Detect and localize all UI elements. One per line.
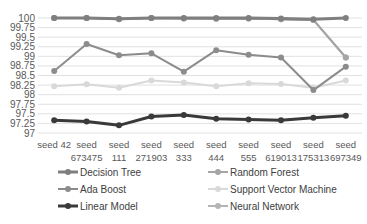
data-point	[51, 68, 57, 74]
x-tick-label: seed	[238, 139, 259, 150]
data-point	[51, 83, 57, 89]
legend-marker-icon	[215, 203, 221, 209]
data-point	[51, 15, 57, 21]
legend-label: Random Forest	[230, 167, 299, 178]
x-tick-label: 271903	[136, 152, 168, 163]
series-neural-network	[51, 15, 349, 60]
data-point	[278, 81, 284, 87]
series-lines	[51, 15, 349, 128]
x-tick-label: seed	[173, 139, 194, 150]
data-point	[116, 85, 122, 91]
x-tick-label: 175313	[298, 152, 330, 163]
data-point	[343, 15, 349, 21]
data-point	[148, 15, 154, 21]
data-point	[246, 15, 252, 21]
data-point	[343, 54, 349, 60]
legend-label: Neural Network	[230, 201, 300, 212]
line-chart: 10099.7599.599.259998.7598.598.259897.75…	[0, 0, 367, 224]
legend-item: Support Vector Machine	[208, 184, 337, 195]
data-point	[310, 115, 316, 121]
data-point	[246, 117, 252, 123]
legend-label: Decision Tree	[80, 167, 142, 178]
data-point	[181, 69, 187, 75]
data-point	[278, 54, 284, 60]
data-point	[213, 116, 219, 122]
y-tick-label: 97	[24, 128, 36, 139]
x-tick-label: 673475	[71, 152, 103, 163]
series-random-forest	[51, 15, 349, 60]
legend-marker-icon	[215, 169, 221, 175]
legend-label: Support Vector Machine	[230, 184, 337, 195]
data-point	[310, 16, 316, 22]
data-point	[278, 117, 284, 123]
legend-marker-icon	[65, 169, 71, 175]
x-tick-label: seed	[76, 139, 97, 150]
legend-label: Ada Boost	[80, 184, 126, 195]
legend: Decision TreeRandom ForestAda BoostSuppo…	[58, 167, 337, 212]
x-tick-label: seed	[271, 139, 292, 150]
legend-marker-icon	[215, 186, 221, 192]
data-point	[343, 113, 349, 119]
data-point	[213, 15, 219, 21]
data-point	[116, 16, 122, 22]
x-tick-label: 697349	[330, 152, 362, 163]
x-axis-ticks: seed 42seed673475seed111seed271903seed33…	[37, 139, 361, 163]
data-point	[246, 80, 252, 86]
data-point	[116, 122, 122, 128]
x-tick-label: seed	[141, 139, 162, 150]
data-point	[310, 87, 316, 93]
data-point	[148, 77, 154, 83]
data-point	[84, 15, 90, 21]
x-tick-label: 444	[208, 152, 224, 163]
data-point	[181, 112, 187, 118]
y-axis-ticks: 10099.7599.599.259998.7598.598.259897.75…	[10, 13, 35, 139]
legend-marker-icon	[65, 186, 71, 192]
data-point	[84, 81, 90, 87]
data-point	[181, 15, 187, 21]
legend-item: Linear Model	[58, 201, 138, 212]
data-point	[116, 52, 122, 58]
data-point	[343, 64, 349, 70]
x-tick-label: seed	[109, 139, 130, 150]
data-point	[148, 114, 154, 120]
data-point	[278, 15, 284, 21]
x-tick-label: seed	[303, 139, 324, 150]
x-tick-label: 619013	[265, 152, 297, 163]
x-tick-label: 333	[176, 152, 192, 163]
data-point	[343, 77, 349, 83]
data-point	[51, 117, 57, 123]
legend-label: Linear Model	[80, 201, 138, 212]
x-tick-label: seed	[206, 139, 227, 150]
data-point	[84, 41, 90, 47]
data-point	[84, 119, 90, 125]
data-point	[148, 50, 154, 56]
legend-item: Neural Network	[208, 201, 300, 212]
x-tick-label: 111	[112, 152, 126, 163]
legend-item: Random Forest	[208, 167, 299, 178]
x-tick-label: 555	[241, 152, 257, 163]
data-point	[181, 79, 187, 85]
legend-item: Decision Tree	[58, 167, 142, 178]
legend-marker-icon	[65, 203, 71, 209]
legend-item: Ada Boost	[58, 184, 126, 195]
data-point	[213, 47, 219, 53]
x-tick-label: seed 42	[37, 139, 71, 150]
x-tick-label: seed	[335, 139, 356, 150]
data-point	[246, 52, 252, 58]
data-point	[213, 83, 219, 89]
series-decision-tree	[51, 15, 349, 22]
series-linear-model	[51, 112, 349, 128]
